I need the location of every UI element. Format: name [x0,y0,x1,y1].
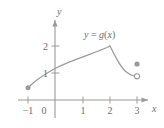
x-tick-label-2: 2 [102,106,118,116]
y-axis-label: y [57,7,61,17]
curve-branch-right [110,46,136,76]
x-axis-arrow-icon [142,97,149,102]
y-tick-label-2: 2 [36,42,48,52]
x-axis-label: x [152,104,156,114]
point-left-endpoint-filled [26,85,31,90]
x-tick-label-3: 3 [129,106,145,116]
point-right-limit-open [134,74,139,79]
curve-label: y = g(x) [84,30,115,40]
point-right-value-filled [134,61,139,66]
curve-branch-left [28,46,110,88]
x-tick-label-0: 0 [36,106,52,116]
x-tick-label--1: −1 [20,106,36,116]
y-axis-arrow-icon [52,20,57,27]
y-tick-label-1: 1 [36,69,48,79]
curve-label-equals: = [88,29,99,40]
graph-figure: −1 0 1 2 3 1 2 x y y = g(x) [0,0,164,128]
x-tick-label-1: 1 [75,106,91,116]
curve-label-paren-close: ) [112,29,115,40]
